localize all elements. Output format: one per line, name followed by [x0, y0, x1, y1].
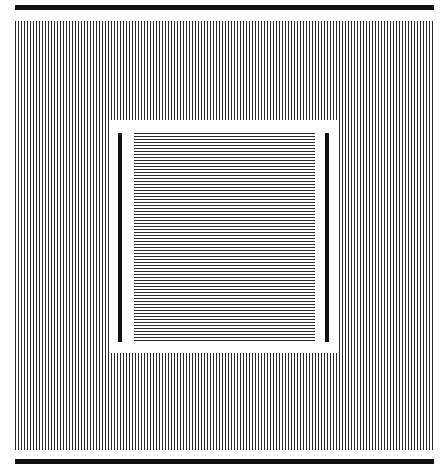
- horizontal-grating: [134, 133, 315, 343]
- right-vertical-bar: [325, 133, 329, 342]
- bottom-bar: [15, 459, 434, 464]
- center-square: [109, 120, 339, 353]
- top-bar: [15, 5, 434, 10]
- left-vertical-bar: [118, 133, 122, 342]
